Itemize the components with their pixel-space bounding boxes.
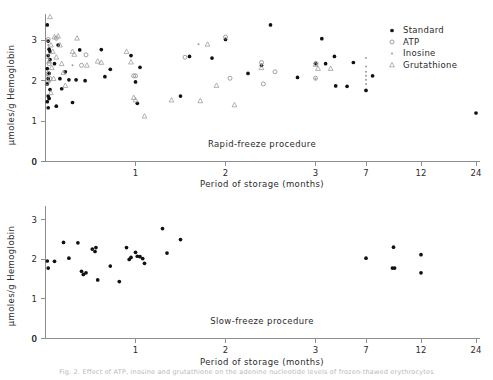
y-tick-label: 2 xyxy=(32,254,37,264)
data-point-standard xyxy=(134,250,138,254)
data-point-grutathione xyxy=(129,59,134,63)
data-point-inosine xyxy=(365,71,367,73)
data-point-standard xyxy=(296,76,300,80)
x-tick-label: 2 xyxy=(223,168,228,178)
panel-annotation-rapid-freeze: Rapid-freeze procedure xyxy=(208,139,316,149)
data-point-grutathione xyxy=(59,61,64,65)
y-tick-group-top: 0123 xyxy=(32,35,46,166)
y-axis-title-top: μmoles/g Hemoglobin xyxy=(6,45,16,146)
data-point-standard xyxy=(96,278,100,282)
data-point-standard xyxy=(334,84,338,88)
data-point-standard xyxy=(179,238,183,242)
data-point-grutathione xyxy=(232,102,237,106)
chart-panel-rapid-freeze: 0123 012371224 μmoles/g Hemoglobin Rapid… xyxy=(0,0,493,192)
y-tick-label: 1 xyxy=(32,294,37,304)
x-tick-label: 7 xyxy=(363,168,368,178)
x-axis-title-top: Period of storage (months) xyxy=(200,179,324,189)
data-point-grutathione xyxy=(85,63,90,67)
data-point-standard xyxy=(352,61,356,65)
y-axis-title-bottom: μmoles/g Hemoglobin xyxy=(6,226,16,327)
data-point-inosine xyxy=(365,79,367,81)
legend-marker-grutathione xyxy=(390,62,395,66)
legend-label-inosine: Inosine xyxy=(403,48,436,58)
data-point-atp xyxy=(273,70,277,74)
data-point-inosine xyxy=(365,66,367,68)
data-point-grutathione xyxy=(205,42,210,46)
data-point-standard xyxy=(269,23,273,27)
data-point-standard xyxy=(129,54,133,58)
x-tick-label: 7 xyxy=(363,345,368,355)
data-point-standard xyxy=(141,257,145,261)
data-point-standard xyxy=(45,259,49,263)
data-point-grutathione xyxy=(169,97,174,101)
x-tick-label: 2 xyxy=(223,345,228,355)
data-point-standard xyxy=(324,62,328,66)
data-point-standard xyxy=(54,104,58,108)
data-point-standard xyxy=(93,250,97,254)
data-point-standard xyxy=(138,65,142,69)
data-point-standard xyxy=(108,264,112,268)
x-tick-label: 12 xyxy=(416,168,427,178)
chart-panel-slow-freeze: 0123 012371224 μmoles/g Hemoglobin Slow-… xyxy=(0,192,493,380)
x-tick-label: 0 xyxy=(32,157,37,167)
data-point-inosine xyxy=(365,75,367,77)
data-point-grutathione xyxy=(75,36,80,40)
x-tick-label: 12 xyxy=(416,345,427,355)
data-point-grutathione xyxy=(198,98,203,102)
x-tick-group-bottom: 012371224 xyxy=(32,334,482,355)
data-point-standard xyxy=(94,246,98,250)
data-point-atp xyxy=(80,63,84,67)
data-point-standard xyxy=(419,271,423,275)
data-point-standard xyxy=(67,78,71,82)
data-point-inosine xyxy=(365,57,367,59)
data-point-standard xyxy=(129,256,133,260)
data-point-standard xyxy=(143,262,147,266)
data-point-grutathione xyxy=(48,14,53,18)
data-point-standard xyxy=(419,253,423,257)
data-point-standard xyxy=(161,227,165,231)
data-point-standard xyxy=(125,246,129,250)
data-point-standard xyxy=(320,37,324,41)
data-point-standard xyxy=(246,72,250,76)
legend-marker-atp xyxy=(390,40,394,44)
data-point-standard xyxy=(46,266,50,270)
data-point-standard xyxy=(392,245,396,249)
data-point-standard xyxy=(76,241,80,245)
data-point-standard xyxy=(53,260,57,264)
data-point-standard xyxy=(165,251,169,255)
x-tick-group-top: 012371224 xyxy=(32,157,482,178)
data-point-standard xyxy=(179,94,183,98)
data-point-grutathione xyxy=(328,66,333,70)
data-point-standard xyxy=(67,256,71,260)
data-point-standard xyxy=(474,111,478,115)
data-point-grutathione xyxy=(124,49,129,53)
x-tick-label: 1 xyxy=(133,345,138,355)
data-point-grutathione xyxy=(54,55,59,59)
x-tick-label: 3 xyxy=(313,345,318,355)
legend-label-atp: ATP xyxy=(403,37,419,47)
data-point-standard xyxy=(45,67,49,71)
data-point-grutathione xyxy=(49,43,54,47)
legend-marker-inosine xyxy=(391,53,393,55)
data-point-atp xyxy=(228,76,232,80)
y-tick-label: 2 xyxy=(32,76,37,86)
x-axis-title-bottom: Period of storage (months) xyxy=(200,357,324,367)
data-point-standard xyxy=(364,89,368,93)
data-point-standard xyxy=(371,74,375,78)
x-tick-label: 1 xyxy=(133,168,138,178)
slow-freeze-svg: 0123 012371224 μmoles/g Hemoglobin Slow-… xyxy=(0,192,493,380)
x-tick-label: 0 xyxy=(32,334,37,344)
data-point-standard xyxy=(99,48,103,52)
data-point-standard xyxy=(393,266,397,270)
figure-container: 0123 012371224 μmoles/g Hemoglobin Rapid… xyxy=(0,0,493,380)
data-point-grutathione xyxy=(63,83,68,87)
y-tick-label: 3 xyxy=(32,215,37,225)
data-point-standard xyxy=(45,100,49,104)
data-point-inosine xyxy=(72,64,74,66)
figure-caption: Fig. 2. Effect of ATP, inosine and gruta… xyxy=(0,368,493,376)
data-point-standard xyxy=(333,55,337,59)
x-tick-label: 24 xyxy=(471,345,482,355)
data-point-standard xyxy=(83,79,87,83)
data-point-grutathione xyxy=(214,83,219,87)
data-point-standard xyxy=(345,84,349,88)
